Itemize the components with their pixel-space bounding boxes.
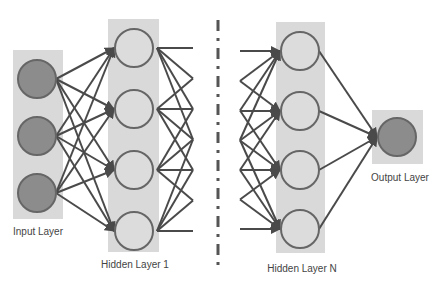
edge-line: [240, 81, 280, 111]
input-layer-label: Input Layer: [13, 226, 63, 237]
input-neuron: [18, 117, 56, 155]
separator-dot: [217, 38, 220, 41]
hiddenN-neuron: [281, 32, 319, 70]
separator-dot: [217, 94, 220, 97]
separator-dash: [217, 216, 220, 227]
separator-dot: [217, 206, 220, 209]
separator-dash: [217, 244, 220, 255]
hidden-layer-n-label: Hidden Layer N: [267, 263, 336, 274]
separator-dot: [217, 262, 220, 265]
hiddenN-neuron: [281, 92, 319, 130]
hidden1-neuron: [115, 212, 153, 250]
edge-line: [157, 48, 193, 109]
separator-dot: [217, 66, 220, 69]
edge-line: [240, 51, 280, 111]
edge-line: [319, 137, 377, 170]
separator-dash: [217, 160, 220, 171]
separator-dash: [217, 104, 220, 115]
edge-line: [240, 170, 280, 229]
edge-line: [56, 48, 114, 79]
neural-network-diagram: [0, 0, 439, 282]
layer-separator: [217, 20, 220, 265]
separator-dash: [217, 76, 220, 87]
edge-line: [56, 136, 114, 170]
hidden1-neuron: [115, 90, 153, 128]
hiddenN-neuron: [281, 210, 319, 248]
separator-dash: [217, 188, 220, 199]
hidden1-neuron: [115, 151, 153, 189]
edge-line: [157, 79, 193, 110]
edge-line: [319, 137, 377, 229]
output-neuron: [378, 118, 416, 156]
separator-dot: [217, 150, 220, 153]
separator-dot: [217, 234, 220, 237]
separator-dot: [217, 122, 220, 125]
separator-dash: [217, 48, 220, 59]
input-neuron: [18, 174, 56, 212]
separator-dot: [217, 178, 220, 181]
hidden-layer-1-label: Hidden Layer 1: [101, 259, 169, 270]
edge-line: [56, 193, 114, 231]
separator-dash: [217, 20, 220, 31]
hiddenN-neuron: [281, 151, 319, 189]
edge-line: [157, 170, 193, 231]
edge-line: [157, 140, 193, 232]
edge-line: [240, 140, 280, 229]
hidden1-neuron: [115, 29, 153, 67]
input-neuron: [18, 60, 56, 98]
separator-dash: [217, 132, 220, 143]
output-layer-label: Output Layer: [371, 172, 429, 183]
